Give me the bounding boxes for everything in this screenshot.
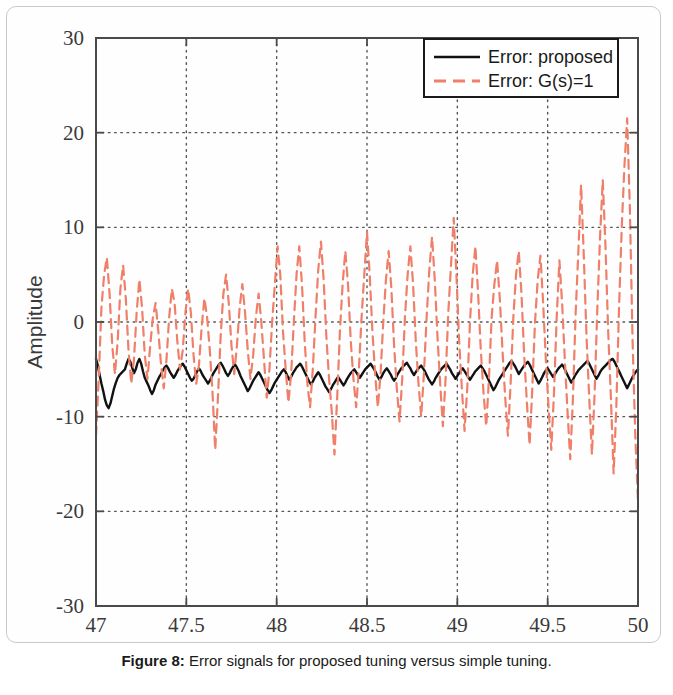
- figure-caption: Figure 8: Error signals for proposed tun…: [0, 652, 673, 669]
- y-axis-title: Amplitude: [23, 275, 46, 368]
- y-tick-label: 30: [63, 26, 84, 50]
- x-tick-label: 49.5: [529, 613, 566, 637]
- x-tick-label: 50: [628, 613, 649, 637]
- chart-legend: Error: proposedError: G(s)=1: [424, 39, 618, 97]
- series-line-0: [96, 359, 638, 408]
- figure-caption-label: Figure 8:: [121, 652, 184, 669]
- x-tick-label: 48: [266, 613, 287, 637]
- y-tick-label: 20: [63, 121, 84, 145]
- figure-caption-text: Error signals for proposed tuning versus…: [185, 652, 552, 669]
- x-axis-title: Time (s): [329, 643, 405, 644]
- error-signals-chart: 4747.54848.54949.550-30-20-100102030Time…: [7, 7, 662, 644]
- x-tick-label: 47.5: [168, 613, 205, 637]
- x-tick-label: 48.5: [349, 613, 386, 637]
- y-tick-label: 10: [63, 215, 84, 239]
- x-tick-label: 49: [447, 613, 468, 637]
- y-tick-label: -20: [56, 499, 84, 523]
- legend-label-1: Error: G(s)=1: [488, 71, 594, 91]
- figure-frame: 4747.54848.54949.550-30-20-100102030Time…: [6, 6, 661, 643]
- legend-label-0: Error: proposed: [488, 47, 613, 67]
- x-tick-label: 47: [86, 613, 107, 637]
- y-tick-label: -30: [56, 594, 84, 618]
- y-tick-label: -10: [56, 405, 84, 429]
- y-tick-label: 0: [74, 310, 85, 334]
